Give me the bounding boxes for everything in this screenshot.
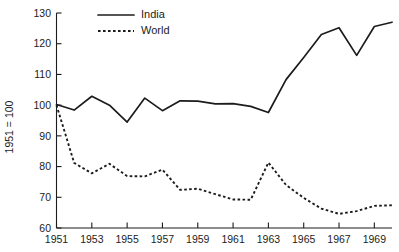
y-axis-title: 1951 = 100 [3, 100, 15, 153]
x-tick-label: 1965 [292, 233, 316, 245]
series-line-world [57, 105, 393, 214]
y-axis-title-label: 1951 = 100 [3, 100, 15, 153]
x-tick-label: 1969 [363, 233, 387, 245]
x-tick-label: 1959 [186, 233, 210, 245]
x-tick-label: 1955 [115, 233, 139, 245]
y-tick-label: 110 [34, 68, 51, 80]
y-tick-label: 60 [39, 222, 51, 234]
x-tick-label: 1957 [151, 233, 175, 245]
chart-legend: India World [98, 8, 170, 36]
legend-label-india: India [141, 8, 166, 20]
y-tick-label: 130 [33, 7, 51, 19]
y-axis-ticks: 60708090100110120130 [33, 7, 61, 234]
legend-entry-india: India [98, 8, 166, 20]
y-tick-label: 70 [39, 191, 51, 203]
series-line-india [57, 22, 393, 122]
x-tick-label: 1963 [257, 233, 281, 245]
y-tick-label: 80 [39, 160, 51, 172]
legend-label-world: World [141, 24, 170, 36]
x-tick-label: 1967 [327, 233, 351, 245]
y-tick-label: 100 [33, 99, 51, 111]
line-chart: 1951 = 100 60708090100110120130 19511953… [0, 0, 399, 252]
x-tick-label: 1951 [45, 233, 69, 245]
x-tick-label: 1953 [80, 233, 104, 245]
y-tick-label: 90 [39, 130, 51, 142]
chart-canvas: 1951 = 100 60708090100110120130 19511953… [0, 0, 399, 252]
x-tick-label: 1961 [221, 233, 245, 245]
legend-entry-world: World [98, 24, 170, 36]
y-tick-label: 120 [33, 37, 51, 49]
x-axis-ticks: 1951195319551957195919611963196519671969 [45, 223, 386, 246]
data-series-group [57, 22, 393, 214]
